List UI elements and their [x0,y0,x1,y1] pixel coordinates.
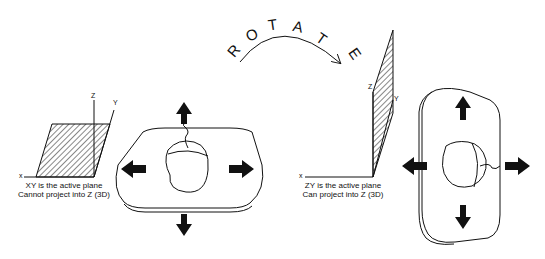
arrow-up-icon [455,96,471,120]
left-caption-line1: XY is the active plane [14,181,114,190]
y-axis-label: Y [113,99,118,106]
xy-plane-diagram [24,100,114,177]
y-axis-label: Y [394,95,399,102]
right-caption-line1: ZY is the active plane [293,181,393,190]
vertical-mouse-pad [402,88,530,244]
z-axis-label: Z [368,83,372,90]
left-caption-line2: Cannot project into Z (3D) [14,190,114,199]
arrow-right-icon [505,157,530,175]
right-caption: ZY is the active plane Can project into … [293,181,393,199]
x-axis-label: x [299,172,303,179]
x-axis-label: x [19,172,23,179]
mouse-icon [166,141,208,192]
arrow-down-icon [455,205,471,229]
horizontal-mouse-pad [116,102,263,236]
arrow-left-icon [402,157,427,175]
arrow-down-icon [176,214,192,236]
z-axis-label: Z [91,92,95,99]
right-caption-line2: Can project into Z (3D) [293,190,393,199]
arrow-up-icon [176,102,192,124]
arrow-right-icon [229,160,254,178]
left-caption: XY is the active plane Cannot project in… [14,181,114,199]
diagram-canvas [0,0,545,259]
arrow-left-icon [121,160,146,178]
mouse-icon [442,142,486,188]
